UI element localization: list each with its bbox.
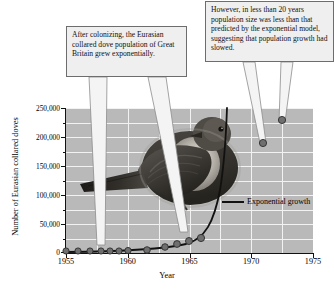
figure-root: After colonizing, the Eurasian collared … [0,0,334,302]
y-tick-label-0: 0 [16,249,60,256]
legend-label-exponential-growth: Exponential growth [247,197,310,206]
annotation-callout-left: After colonizing, the Eurasian collared … [66,26,187,77]
gridline-v-1962-5 [159,108,160,253]
y-axis-title: Number of Eurasian collared doves [11,102,20,252]
y-tick-label-200000: 200,000 [16,134,60,141]
x-tick-label-1955: 1955 [46,257,86,266]
y-tick-label-150000: 150,000 [16,163,60,170]
x-axis-title: Year [0,271,334,280]
gridline-v-1957-5 [97,108,98,253]
x-tick-label-1960: 1960 [108,257,148,266]
plot-area [66,108,313,253]
gridline-v-1972-5 [282,108,283,253]
annotation-callout-right: However, in less than 20 years populatio… [205,1,334,62]
y-tick-minor-25000 [63,239,66,240]
x-tick-label-1970: 1970 [231,257,271,266]
eurasian-collared-dove-photo [78,110,254,214]
y-tick-label-250000: 250,000 [16,105,60,112]
annotation-callout-right-text: However, in less than 20 years populatio… [211,5,329,53]
y-tick-label-50000: 50,000 [16,221,60,228]
y-tick-150000 [61,166,65,167]
gridline-v-1970 [251,108,252,253]
y-tick-minor-225000 [63,123,66,124]
y-tick-minor-75000 [63,210,66,211]
y-tick-200000 [61,137,65,138]
gridline-v-1960 [128,108,129,253]
y-tick-100000 [61,195,65,196]
y-axis-line [65,108,66,254]
y-tick-minor-125000 [63,181,66,182]
y-tick-50000 [61,224,65,225]
y-tick-minor-175000 [63,152,66,153]
gridline-v-1965 [190,108,191,253]
x-tick-label-1975: 1975 [293,257,333,266]
y-tick-0 [61,252,65,253]
legend-line-swatch [222,201,244,203]
legend-exponential-growth: Exponential growth [247,197,311,206]
annotation-callout-left-text: After colonizing, the Eurasian collared … [72,30,182,59]
x-tick-label-1965: 1965 [170,257,210,266]
y-tick-label-100000: 100,000 [16,192,60,199]
y-tick-250000 [61,108,65,109]
gridline-v-1967-5 [220,108,221,253]
